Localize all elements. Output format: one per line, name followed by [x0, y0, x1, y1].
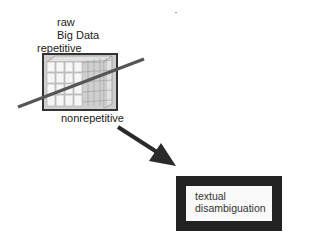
- label-repetitive: repetitive: [37, 42, 82, 54]
- stray-dot: [175, 12, 177, 13]
- label-big-data: Big Data: [57, 29, 99, 41]
- target-box-text: textual disambiguation: [195, 190, 266, 214]
- target-box-line1: textual: [195, 190, 266, 202]
- label-nonrepetitive: nonrepetitive: [61, 112, 124, 124]
- arrow-icon: [118, 127, 176, 166]
- target-box-line2: disambiguation: [195, 202, 266, 214]
- label-raw: raw: [57, 16, 75, 28]
